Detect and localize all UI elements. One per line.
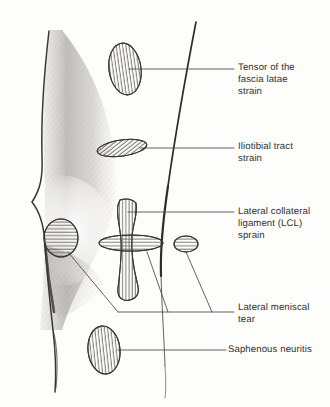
label-lateral-collateral-ligament: Lateral collateral ligament (LCL) sprain [238, 206, 310, 243]
leader-meniscal-from-posterior [186, 252, 212, 312]
label-lateral-meniscal-tear: Lateral meniscal tear [238, 302, 309, 326]
pes-anserine-lesion [44, 219, 78, 257]
leader-meniscal-from-bar [147, 252, 168, 312]
label-tensor-fascia-latae: Tensor of the fascia latae strain [238, 62, 295, 99]
knee-injury-illustration: Tensor of the fascia latae strain Ilioti… [0, 0, 330, 407]
label-iliotibial-tract: Iliotibial tract strain [238, 141, 293, 165]
saphenous-neuritis-lesion [86, 324, 123, 375]
leg-shading [40, 30, 116, 330]
lateral-meniscus-lesion [99, 235, 163, 251]
label-saphenous-neuritis: Saphenous neuritis [228, 344, 312, 356]
posterior-contour-line [161, 22, 196, 398]
tensor-fascia-latae-lesion [106, 41, 145, 97]
lateral-meniscus-posterior-lesion [174, 236, 198, 252]
